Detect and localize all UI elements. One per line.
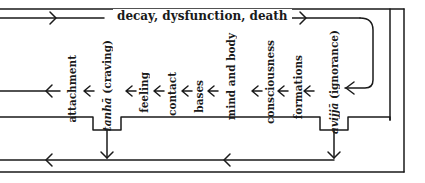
link-bases: bases [193,80,205,113]
link-feeling: feeling [138,72,150,113]
link-contact: contact [166,72,178,116]
link-avijja: avijjā (ignorance) [328,30,340,134]
arrow-left-icon [252,86,262,96]
arrow-left-icon [154,86,164,96]
arrow-left-icon [182,86,192,96]
link-formations: formations [292,55,304,119]
arrow-left-icon [304,86,314,96]
decay-label: decay, dysfunction, death [113,9,292,23]
arrow-left-icon [278,86,288,96]
arrow-left-icon [84,86,94,96]
loop-return-line [345,18,373,88]
diagram-lines [0,0,425,183]
link-tanha: tanhā (craving) [101,40,113,131]
dependent-origination-diagram: decay, dysfunction, death attachment tan… [0,0,425,183]
link-attachment: attachment [66,55,78,123]
link-consciousness: consciousness [264,40,276,124]
link-mind-and-body: mind and body [225,33,237,120]
arrow-left-icon [208,86,218,96]
arrow-left-icon [126,86,136,96]
